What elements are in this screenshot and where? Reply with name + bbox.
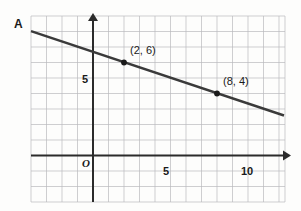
data-point-8-4 <box>214 91 220 97</box>
y-tick-label-5: 5 <box>82 73 88 85</box>
coordinate-graph: (2, 6) (8, 4) 5 10 5 O A <box>0 0 301 211</box>
x-tick-label-5: 5 <box>163 165 169 177</box>
part-label-a: A <box>14 17 23 31</box>
x-tick-label-10: 10 <box>241 165 253 177</box>
x-axis-arrowhead <box>283 151 291 161</box>
graph-figure: (2, 6) (8, 4) 5 10 5 O A <box>0 0 301 211</box>
data-point-label-2-6: (2, 6) <box>130 44 156 56</box>
origin-label: O <box>82 157 90 169</box>
data-point-label-8-4: (8, 4) <box>223 75 249 87</box>
data-point-2-6 <box>121 60 127 66</box>
